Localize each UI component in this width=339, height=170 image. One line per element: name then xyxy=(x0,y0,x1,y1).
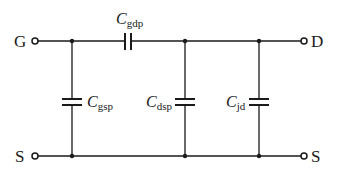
capacitor-cgsp xyxy=(62,41,82,156)
circuit-svg: G D S S Cgdp Cgsp Cdsp Cjd xyxy=(0,0,339,170)
gate-terminal-icon xyxy=(32,38,38,44)
source-left-label: S xyxy=(15,147,24,166)
cgdp-subscript: gdp xyxy=(127,17,144,29)
cgsp-label: Cgsp xyxy=(87,93,113,112)
cgsp-symbol: C xyxy=(87,93,98,110)
cdsp-label: Cdsp xyxy=(146,93,172,112)
source-right-terminal-icon xyxy=(301,153,307,159)
junction-dot xyxy=(70,154,74,158)
junction-dot xyxy=(257,39,261,43)
drain-terminal-icon xyxy=(301,38,307,44)
capacitor-cdsp xyxy=(175,41,195,156)
cdsp-symbol: C xyxy=(146,93,157,110)
cgdp-symbol: C xyxy=(116,10,127,27)
cgdp-label: Cgdp xyxy=(116,10,144,29)
drain-label: D xyxy=(311,32,323,51)
junction-dot xyxy=(183,154,187,158)
gate-label: G xyxy=(14,32,26,51)
cgsp-subscript: gsp xyxy=(98,100,114,112)
cjd-subscript: jd xyxy=(236,100,246,112)
circuit-diagram: G D S S Cgdp Cgsp Cdsp Cjd xyxy=(0,0,339,170)
cdsp-subscript: dsp xyxy=(157,100,173,112)
capacitor-cgdp xyxy=(125,33,131,50)
junction-dot xyxy=(70,39,74,43)
cjd-label: Cjd xyxy=(226,93,246,112)
junction-dot xyxy=(183,39,187,43)
cjd-symbol: C xyxy=(226,93,237,110)
source-right-label: S xyxy=(311,147,320,166)
capacitor-cjd xyxy=(249,41,269,156)
junction-dot xyxy=(257,154,261,158)
source-left-terminal-icon xyxy=(32,153,38,159)
